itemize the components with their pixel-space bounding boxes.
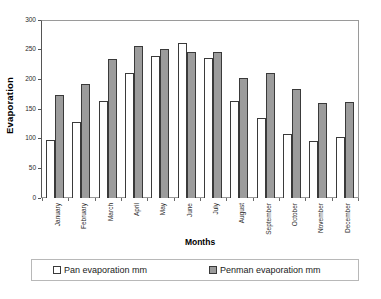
x-axis-tick-label: May <box>160 203 167 215</box>
y-axis-tick: 300 <box>25 15 41 25</box>
x-axis-label-slot: May <box>147 201 173 241</box>
x-axis-tick-label: March <box>108 203 115 221</box>
chart-legend: Pan evaporation mm Penman evaporation mm <box>31 259 359 281</box>
bar-pan <box>257 118 266 198</box>
y-axis-tick-label: 50 <box>29 165 38 172</box>
x-axis-tick-label: September <box>266 203 273 235</box>
x-axis-label-slot: August <box>226 201 252 241</box>
bar-pan <box>230 101 239 198</box>
y-axis-tick-label: 150 <box>25 106 38 113</box>
y-axis-tick: 50 <box>29 163 41 173</box>
y-axis-tick: 0 <box>32 193 41 203</box>
x-axis-title: Months <box>41 237 359 247</box>
y-axis-ticks: 050100150200250300 <box>0 0 41 220</box>
bar-group <box>253 21 279 198</box>
x-axis-tick-label: December <box>345 203 352 233</box>
y-axis-tick: 150 <box>25 104 41 114</box>
x-axis-label-slot: July <box>200 201 226 241</box>
bar-penman <box>266 73 275 198</box>
y-axis-tick: 250 <box>25 45 41 55</box>
bar-pan <box>125 73 134 198</box>
legend-label-penman: Penman evaporation mm <box>220 266 321 275</box>
bar-penman <box>160 49 169 198</box>
bar-pan <box>72 122 81 198</box>
bar-penman <box>345 102 354 198</box>
x-axis-label-slot: December <box>332 201 358 241</box>
bar-group <box>332 21 358 198</box>
evaporation-bar-chart: Evaporation 050100150200250300 JanuaryFe… <box>0 0 381 299</box>
bar-penman <box>108 59 117 198</box>
y-axis-tick-label: 200 <box>25 76 38 83</box>
bar-penman <box>239 78 248 198</box>
x-axis-label-slot: January <box>42 201 68 241</box>
y-axis-tick: 200 <box>25 74 41 84</box>
bar-group <box>200 21 226 198</box>
x-axis-label-slot: April <box>121 201 147 241</box>
bar-pan <box>309 141 318 198</box>
bar-pan <box>283 134 292 198</box>
x-axis-label-slot: June <box>174 201 200 241</box>
bar-penman <box>292 89 301 198</box>
bar-group <box>42 21 68 198</box>
x-axis-tick-mark <box>358 198 359 201</box>
bar-pan <box>151 56 160 198</box>
bar-group <box>226 21 252 198</box>
bar-pan <box>46 140 55 198</box>
y-axis-tick-label: 300 <box>25 17 38 24</box>
bar-group <box>68 21 94 198</box>
bar-group <box>174 21 200 198</box>
x-axis-label-slot: October <box>279 201 305 241</box>
bar-group <box>305 21 331 198</box>
x-axis-tick-label: October <box>292 203 299 226</box>
bar-pan <box>336 137 345 198</box>
legend-item-penman-evaporation: Penman evaporation mm <box>209 266 321 275</box>
y-axis-tick: 100 <box>25 134 41 144</box>
bar-group <box>121 21 147 198</box>
bar-penman <box>55 95 64 198</box>
bar-penman <box>187 52 196 198</box>
bar-penman <box>134 46 143 198</box>
y-axis-tick-label: 250 <box>25 46 38 53</box>
x-axis-tick-label: November <box>318 203 325 233</box>
bar-penman <box>81 84 90 198</box>
x-axis-label-slot: November <box>305 201 331 241</box>
bar-group <box>279 21 305 198</box>
x-axis-labels: JanuaryFebruaryMarchAprilMayJuneJulyAugu… <box>42 201 358 241</box>
bar-penman <box>318 103 327 198</box>
bar-pan <box>204 58 213 198</box>
legend-item-pan-evaporation: Pan evaporation mm <box>53 266 147 275</box>
x-axis-label-slot: March <box>95 201 121 241</box>
bar-group <box>147 21 173 198</box>
x-axis-label-slot: September <box>253 201 279 241</box>
bar-group <box>95 21 121 198</box>
bars-layer <box>42 21 358 198</box>
x-axis-tick-label: April <box>134 203 141 216</box>
legend-label-pan: Pan evaporation mm <box>64 266 147 275</box>
legend-swatch-icon-penman <box>209 266 217 274</box>
y-axis-tick-label: 100 <box>25 135 38 142</box>
x-axis-label-slot: February <box>68 201 94 241</box>
x-axis-tick-label: February <box>81 203 88 229</box>
x-axis-tick-label: January <box>55 203 62 226</box>
bar-pan <box>99 101 108 198</box>
x-axis-tick-label: July <box>213 203 220 215</box>
bar-penman <box>213 52 222 198</box>
bar-pan <box>178 43 187 198</box>
x-axis-tick-label: August <box>239 203 246 223</box>
x-axis-tick-label: June <box>187 203 194 217</box>
legend-swatch-icon-pan <box>53 266 61 274</box>
